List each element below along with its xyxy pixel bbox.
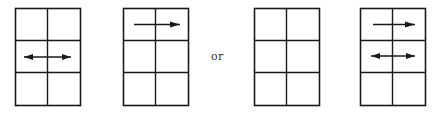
right-arrow-icon bbox=[134, 22, 180, 28]
grid-2 bbox=[124, 9, 189, 106]
grid-1 bbox=[16, 9, 81, 106]
right-arrow-icon bbox=[373, 22, 415, 28]
diagram-canvas: or bbox=[0, 0, 441, 114]
separator-label: or bbox=[211, 50, 224, 63]
grid-4 bbox=[361, 9, 426, 106]
grid-3 bbox=[255, 9, 320, 106]
